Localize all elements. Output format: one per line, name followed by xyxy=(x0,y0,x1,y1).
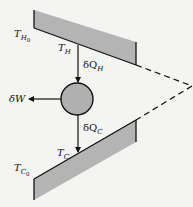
hot-reservoir-body xyxy=(34,10,136,65)
engine-circle xyxy=(61,83,93,115)
hot-reservoir-initial-temp-label: TH0 xyxy=(14,28,31,43)
hot-reservoir xyxy=(34,10,136,65)
heat-engine-diagram: TH0 TH δQH δW δQC TC TC0 xyxy=(0,0,193,207)
work-label: δW xyxy=(9,93,26,104)
dashed-line-upper xyxy=(136,65,192,86)
hot-reservoir-temp-label: TH xyxy=(58,42,72,56)
dashed-line-lower xyxy=(136,86,192,120)
heat-out-label: δQC xyxy=(83,122,103,136)
heat-in-label: δQH xyxy=(83,59,104,73)
cold-reservoir-initial-temp-label: TC0 xyxy=(14,162,30,177)
cold-reservoir-temp-label: TC xyxy=(57,147,70,161)
